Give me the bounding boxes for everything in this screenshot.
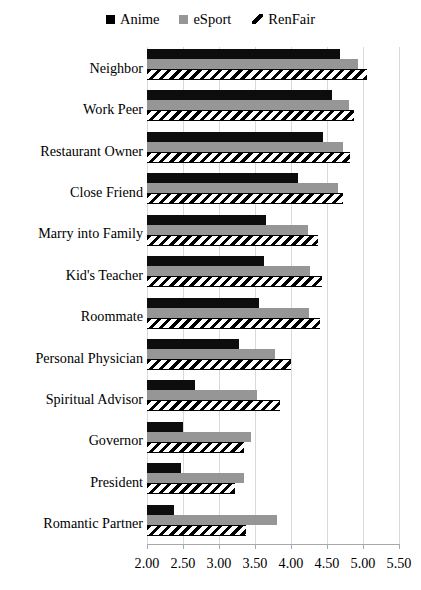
legend-item-esport: eSport: [179, 12, 231, 27]
category-label: Roommate: [1, 309, 143, 323]
bar-group: [147, 130, 399, 171]
x-tick-label: 5.00: [343, 556, 383, 570]
x-tick-label: 2.50: [163, 556, 203, 570]
bar-esport: [147, 515, 277, 525]
bar-anime: [147, 173, 298, 183]
legend-label-anime: Anime: [120, 12, 159, 27]
category-label: Romantic Partner: [1, 516, 143, 530]
legend-label-renfair: RenFair: [268, 12, 315, 27]
x-tick-label: 2.00: [127, 556, 167, 570]
category-label: Governor: [1, 433, 143, 447]
bar-anime: [147, 422, 183, 432]
x-axis-tick-labels: 2.002.503.003.504.004.505.005.50: [0, 556, 421, 576]
gridline: [399, 47, 400, 544]
bar-esport: [147, 59, 358, 69]
category-label: Marry into Family: [1, 226, 143, 240]
bar-renfair: [147, 400, 280, 411]
bar-anime: [147, 339, 239, 349]
category-label: President: [1, 475, 143, 489]
bar-esport: [147, 100, 349, 110]
bar-renfair: [147, 525, 246, 536]
chart-legend: Anime eSport RenFair: [0, 12, 421, 27]
gray-square-swatch-icon: [179, 15, 188, 24]
bar-group: [147, 47, 399, 88]
category-axis: NeighborWork PeerRestaurant OwnerClose F…: [0, 47, 143, 544]
legend-item-renfair: RenFair: [251, 12, 315, 27]
x-tick-label: 5.50: [379, 556, 419, 570]
bar-anime: [147, 298, 259, 308]
bar-renfair: [147, 69, 367, 80]
bar-esport: [147, 432, 251, 442]
x-tick: [147, 544, 148, 549]
hatch-swatch-icon: [251, 14, 263, 25]
bar-esport: [147, 142, 343, 152]
bar-esport: [147, 225, 308, 235]
x-tick-label: 3.50: [235, 556, 275, 570]
bar-renfair: [147, 276, 322, 287]
bar-renfair: [147, 442, 244, 453]
bar-esport: [147, 266, 310, 276]
category-label: Close Friend: [1, 185, 143, 199]
bar-renfair: [147, 483, 235, 494]
legend-label-esport: eSport: [193, 12, 231, 27]
x-tick: [327, 544, 328, 549]
bar-group: [147, 254, 399, 295]
category-label: Personal Physician: [1, 351, 143, 365]
bar-esport: [147, 390, 257, 400]
bar-renfair: [147, 152, 350, 163]
bar-group: [147, 378, 399, 419]
bar-renfair: [147, 110, 354, 121]
category-label: Work Peer: [1, 102, 143, 116]
x-tick-label: 4.50: [307, 556, 347, 570]
bar-anime: [147, 256, 264, 266]
black-square-swatch-icon: [106, 15, 115, 24]
bar-anime: [147, 380, 195, 390]
plot-area: [147, 47, 399, 544]
bar-renfair: [147, 235, 318, 246]
bar-chart: Anime eSport RenFair NeighborWork PeerRe…: [0, 0, 421, 590]
bar-renfair: [147, 318, 320, 329]
bar-esport: [147, 473, 244, 483]
bar-group: [147, 213, 399, 254]
x-tick: [363, 544, 364, 549]
bar-renfair: [147, 359, 291, 370]
category-label: Spiritual Advisor: [1, 392, 143, 406]
category-label: Kid's Teacher: [1, 268, 143, 282]
x-tick-label: 3.00: [199, 556, 239, 570]
bar-anime: [147, 505, 174, 515]
bar-group: [147, 503, 399, 544]
bar-group: [147, 171, 399, 212]
bar-esport: [147, 349, 275, 359]
bar-renfair: [147, 193, 343, 204]
category-label: Neighbor: [1, 61, 143, 75]
x-tick: [183, 544, 184, 549]
x-tick: [255, 544, 256, 549]
category-label: Restaurant Owner: [1, 144, 143, 158]
bar-anime: [147, 49, 340, 59]
legend-item-anime: Anime: [106, 12, 159, 27]
bar-group: [147, 461, 399, 502]
bar-anime: [147, 463, 181, 473]
x-tick: [219, 544, 220, 549]
x-tick: [291, 544, 292, 549]
bar-esport: [147, 308, 309, 318]
x-tick-label: 4.00: [271, 556, 311, 570]
bar-group: [147, 337, 399, 378]
bar-esport: [147, 183, 338, 193]
x-tick: [399, 544, 400, 549]
bar-anime: [147, 132, 323, 142]
bar-group: [147, 420, 399, 461]
bar-anime: [147, 90, 332, 100]
bar-anime: [147, 215, 266, 225]
bar-group: [147, 88, 399, 129]
bar-group: [147, 296, 399, 337]
